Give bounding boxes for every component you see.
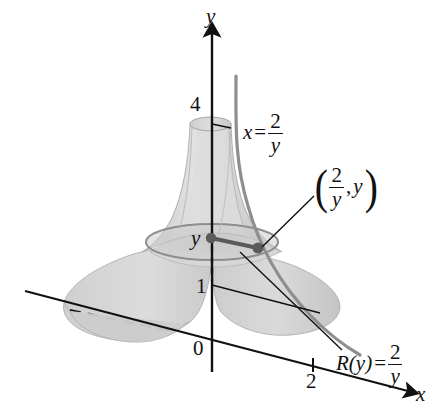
leader-line-point-label [262,196,314,247]
surface-top-cap [190,117,231,131]
curve-equation-lhs: x [243,120,252,144]
point-label-second: y [353,174,362,198]
point-label-comma: , [344,174,353,198]
radius-equation-operator: = [372,351,388,375]
radius-equation-denominator: y [388,365,403,387]
x-tick-label-2: 2 [306,371,317,392]
curve-equation-fraction: 2y [268,111,283,156]
height-variable-label: y [191,228,200,249]
curve-equation-operator: = [252,120,268,144]
y-axis-label: y [206,6,215,27]
radius-equation-numerator: 2 [388,342,403,365]
curve-equation-numerator: 2 [268,111,283,134]
y-tick-label-1: 1 [196,276,207,297]
curve-equation-denominator: y [268,134,283,156]
y-tick-label-4: 4 [190,94,201,115]
x-axis-label: x [416,384,425,405]
point-label-denominator: y [329,188,344,210]
close-paren: ) [364,168,377,206]
curve-equation-label: x=2y [243,112,283,157]
point-coordinate-label: (2y,y) [313,166,379,211]
radius-equation-label: R(y)=2y [336,343,402,388]
radius-equation-lhs: R(y) [336,351,372,375]
axis-point-marker [206,233,216,243]
open-paren: ( [315,168,328,206]
radius-equation-fraction: 2y [388,342,403,387]
point-label-numerator: 2 [329,165,344,188]
solid-of-revolution-figure: y x 4 1 0 2 y x=2y (2y,y) R(y)=2y [0,0,436,419]
curve-point-marker [252,242,263,253]
origin-label: 0 [193,338,204,359]
point-label-fraction: 2y [329,165,344,210]
